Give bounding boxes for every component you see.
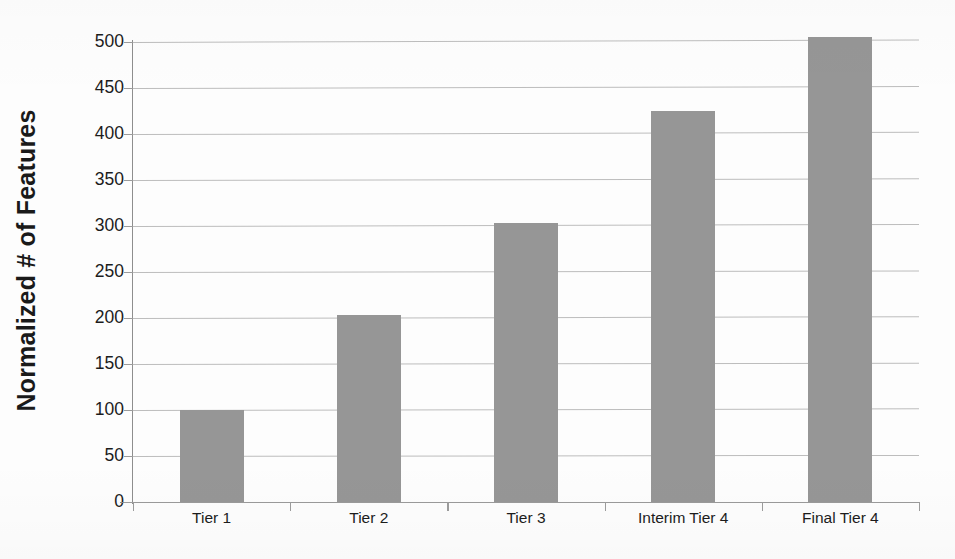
y-tick-mark-200 [124,318,133,319]
y-tick-label-0: 0 [56,493,124,511]
x-tick-mark-0 [133,502,134,511]
x-tick-mark-3 [605,502,606,511]
x-tick-label-interim-tier-4: Interim Tier 4 [638,509,728,528]
y-tick-mark-300 [124,226,133,227]
bar-chart: Normalized # of Features 500450400350300… [0,0,955,559]
y-axis-tick-labels: 500450400350300250200150100500 [56,0,124,559]
x-tick-mark-1 [290,502,291,511]
y-tick-mark-50 [124,456,133,457]
y-tick-label-350: 350 [56,171,124,189]
y-tick-label-400: 400 [56,125,124,143]
bar-tier-2 [337,315,401,502]
plot-area [133,42,919,502]
y-tick-label-100: 100 [56,401,124,419]
y-tick-mark-250 [124,272,133,273]
y-tick-label-250: 250 [56,263,124,281]
y-tick-label-50: 50 [56,447,124,465]
x-axis-tick-labels: Tier 1Tier 2Tier 3Interim Tier 4Final Ti… [133,509,919,549]
gridline-450 [133,86,919,89]
x-tick-label-tier-3: Tier 3 [506,509,545,528]
y-tick-mark-150 [124,364,133,365]
gridline-350 [133,178,919,181]
y-axis-title-text: Normalized # of Features [12,109,41,411]
x-tick-mark-4 [762,502,763,511]
x-tick-label-tier-1: Tier 1 [192,509,231,528]
y-tick-label-200: 200 [56,309,124,327]
y-tick-label-450: 450 [56,79,124,97]
y-tick-mark-0 [124,502,133,503]
y-axis-title: Normalized # of Features [0,0,52,520]
x-tick-label-tier-2: Tier 2 [349,509,388,528]
y-tick-mark-500 [124,42,133,43]
y-tick-label-500: 500 [56,33,124,51]
x-tick-mark-2 [447,502,448,511]
x-tick-label-final-tier-4: Final Tier 4 [802,509,879,528]
bar-final-tier-4 [808,37,872,502]
y-tick-mark-400 [124,134,133,135]
y-tick-mark-450 [124,88,133,89]
y-tick-label-300: 300 [56,217,124,235]
gridline-0 [133,502,919,503]
gridline-500 [133,40,919,43]
bar-interim-tier-4 [651,111,715,502]
bar-tier-1 [180,410,244,502]
y-tick-mark-100 [124,410,133,411]
bar-tier-3 [494,223,558,502]
gridline-400 [133,132,919,135]
y-tick-mark-350 [124,180,133,181]
y-tick-label-150: 150 [56,355,124,373]
x-tick-mark-5 [919,502,920,511]
